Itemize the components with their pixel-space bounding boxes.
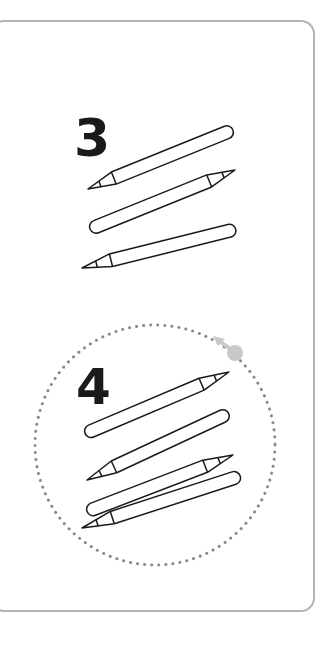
count-label-3: 3 xyxy=(74,112,110,164)
count-label-4: 4 xyxy=(76,362,111,412)
rotate-arrow-icon[interactable] xyxy=(213,336,243,361)
pencil-illustration xyxy=(0,0,322,645)
